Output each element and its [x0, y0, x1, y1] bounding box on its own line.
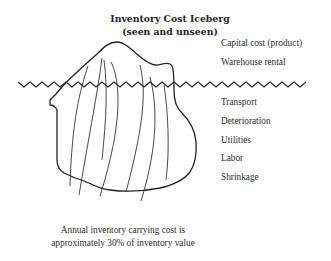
caption-line-2: approximately 30% of inventory value [30, 237, 216, 250]
below-water-label-utilities: Utilities [221, 135, 251, 145]
below-water-label-transport: Transport [221, 97, 257, 107]
diagram-caption: Annual inventory carrying cost is approx… [30, 224, 216, 250]
above-water-label-capital: Capital cost (product) [221, 38, 302, 48]
below-water-label-shrinkage: Shrinkage [221, 172, 259, 182]
below-water-label-labor: Labor [221, 153, 243, 163]
caption-line-1: Annual inventory carrying cost is [30, 224, 216, 237]
below-water-label-deterioration: Deterioration [221, 116, 271, 126]
iceberg-outline [50, 42, 196, 191]
above-water-label-warehouse: Warehouse rental [221, 57, 286, 67]
